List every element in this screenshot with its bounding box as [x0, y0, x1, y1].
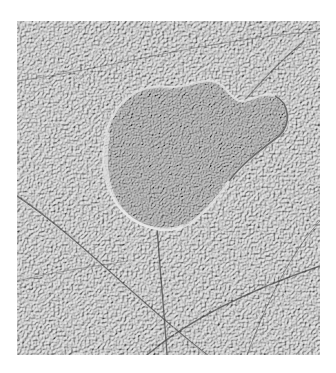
surface-rendering — [17, 21, 320, 355]
surface-image — [17, 21, 320, 355]
